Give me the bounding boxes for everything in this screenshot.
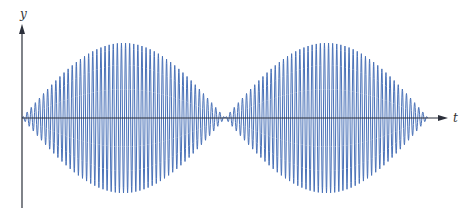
y-axis-label: y	[19, 7, 27, 21]
y-axis-arrow-icon	[19, 24, 25, 34]
chart: t y	[0, 0, 471, 217]
x-axis-label: t	[453, 111, 458, 125]
x-axis-arrow-icon	[438, 115, 448, 121]
